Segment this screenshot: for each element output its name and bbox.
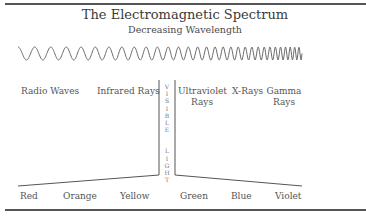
vl-letter: L [162, 119, 172, 126]
spectrum-diagram [0, 0, 366, 222]
decreasing-wavelength-wave [18, 47, 302, 60]
color-blue: Blue [231, 192, 252, 201]
color-red: Red [20, 192, 38, 201]
region-radio-waves: Radio Waves [21, 87, 79, 96]
vl-letter: L [162, 147, 172, 154]
visible-light-label: V I S I B L E L I G H T [162, 83, 172, 183]
region-gamma-rays: Gamma Rays [266, 87, 302, 107]
vl-letter: G [162, 162, 172, 169]
vl-letter: H [162, 169, 172, 176]
vl-letter: I [162, 90, 172, 97]
vl-letter: V [162, 83, 172, 90]
color-green: Green [180, 192, 208, 201]
gamma-line2: Rays [266, 98, 302, 107]
region-infrared-rays: Infrared Rays [97, 87, 160, 96]
region-ultraviolet-rays: Ultraviolet Rays [178, 87, 226, 107]
vl-letter: B [162, 112, 172, 119]
vl-letter: I [162, 155, 172, 162]
bottom-rule [5, 209, 366, 211]
vl-letter: I [162, 105, 172, 112]
vl-letter: T [162, 176, 172, 183]
color-orange: Orange [63, 192, 97, 201]
ultraviolet-line2: Rays [178, 98, 226, 107]
region-x-rays: X-Rays [232, 87, 263, 96]
vl-letter: S [162, 97, 172, 104]
gamma-line1: Gamma [266, 87, 302, 96]
ultraviolet-line1: Ultraviolet [178, 87, 226, 96]
vl-letter: E [162, 126, 172, 133]
vl-gap [162, 133, 172, 147]
color-yellow: Yellow [120, 192, 149, 201]
color-violet: Violet [275, 192, 301, 201]
